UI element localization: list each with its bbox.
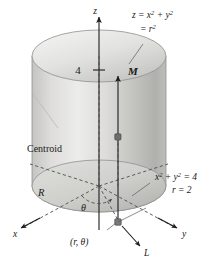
cylinder-diagram: z 4 x y M Centroid R θ (r, θ) L z = x2 +…	[0, 0, 212, 266]
x-axis-arrow	[21, 218, 40, 228]
region-R-label: R	[37, 187, 45, 198]
surface-eq-main: z = x	[131, 10, 152, 20]
y-axis-arrow	[158, 218, 177, 228]
figure-container: z 4 x y M Centroid R θ (r, θ) L z = x2 +…	[0, 0, 212, 266]
line-L-label: L	[143, 248, 149, 258]
centroid-label: Centroid	[27, 143, 62, 154]
circle-equation-line2: r = 2	[172, 185, 192, 195]
theta-label: θ	[81, 202, 86, 213]
surface-equation-line2: = r2	[140, 23, 156, 35]
polar-point-label: (r, θ)	[70, 237, 88, 248]
surface-eq2-main: = r	[140, 24, 153, 34]
circle-eq-end: = 4	[181, 172, 197, 182]
y-axis-label: y	[181, 229, 187, 239]
z-axis-label: z	[92, 6, 97, 16]
surface-eq-sup2: 2	[170, 9, 174, 16]
polar-point-leader	[107, 223, 116, 230]
surface-eq-mid: + y	[154, 10, 170, 20]
vector-M-label: M	[127, 65, 139, 77]
surface-equation-line1: z = x2 + y2	[131, 9, 174, 21]
x-axis-label: x	[12, 229, 18, 239]
centroid-marker	[115, 134, 121, 140]
z-tick-value-label: 4	[75, 64, 81, 76]
circle-eq-mid: + y	[162, 172, 178, 182]
line-L-direction-arrow	[122, 226, 140, 246]
surface-eq2-sup: 2	[152, 23, 156, 30]
